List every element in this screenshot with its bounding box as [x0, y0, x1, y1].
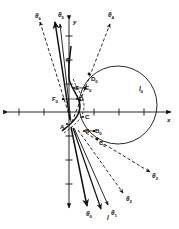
- point-F0-label: F0: [52, 96, 58, 102]
- theta-0-sub: 0: [89, 214, 91, 219]
- ray-theta-4: [72, 24, 110, 122]
- point-E0-label: E0: [85, 85, 91, 91]
- point-A-label: A: [60, 124, 64, 130]
- point-B0-label: B0: [95, 128, 102, 134]
- circle-label-sub: 0: [141, 89, 143, 94]
- point-B0-sub: 0: [99, 131, 101, 136]
- theta-2-sub: 2: [129, 199, 131, 204]
- ray-theta-5: [55, 22, 70, 120]
- theta-3-label: θ3: [152, 173, 158, 179]
- point-D0-label: D0: [91, 76, 98, 82]
- theta-2-label: θ2: [126, 196, 132, 202]
- point-D0-sub: 0: [95, 79, 97, 84]
- point-D-label: D: [79, 96, 83, 102]
- geometric-figure: x y l0 l θ0 θ1 θ2 θ3 θ4 θ5 θ6 A B · B0 C…: [0, 0, 179, 229]
- x-axis-label: x: [167, 117, 170, 123]
- theta-0-label: θ0: [86, 211, 92, 217]
- theta-1-sub: 1: [114, 213, 116, 218]
- x-axis: [8, 109, 171, 116]
- y-axis-label: y: [73, 19, 76, 25]
- marker-C0: [96, 138, 99, 141]
- circle-label-l0: l0: [139, 86, 143, 92]
- point-E-E0-separator: ·: [80, 85, 82, 90]
- theta-1-label: θ1: [111, 210, 117, 216]
- point-C-label: C: [85, 114, 89, 120]
- point-F-label: F: [66, 57, 70, 63]
- theta-4-sub: 4: [111, 15, 113, 20]
- theta-6-sub: 6: [38, 16, 40, 21]
- point-C0-sub: 0: [103, 143, 105, 148]
- theta-6-label: θ6: [35, 13, 41, 19]
- marker-A: [66, 123, 68, 125]
- point-F0-sub: 0: [56, 99, 58, 104]
- line-l-label: l: [107, 215, 109, 221]
- theta-5-label: θ5: [58, 12, 64, 18]
- theta-5-sub: 5: [61, 15, 63, 20]
- marker-F0: [62, 98, 64, 100]
- ray-theta-3: [86, 133, 150, 172]
- marker-D0: [88, 73, 91, 76]
- marker-C: [82, 116, 84, 118]
- theta-3-sub: 3: [155, 176, 157, 181]
- theta-4-label: θ4: [108, 12, 114, 18]
- point-B-label: B: [85, 128, 89, 134]
- marker-D: [76, 98, 78, 100]
- figure-canvas: [0, 0, 179, 229]
- point-B-B0-separator: ·: [90, 128, 92, 133]
- point-C0-label: C0: [99, 140, 106, 146]
- point-E-label: E: [75, 85, 79, 91]
